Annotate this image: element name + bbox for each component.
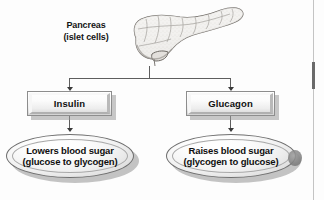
diagram-canvas: Pancreas (islet cells)	[0, 0, 324, 200]
node-raises-blood-sugar: Raises blood sugar (glycogen to glucose)	[166, 134, 296, 178]
pancreas-label: Pancreas (islet cells)	[48, 20, 124, 43]
node-lowers-blood-sugar: Lowers blood sugar (glucose to glycogen)	[6, 134, 134, 178]
pancreas-illustration-icon	[122, 2, 248, 70]
raises-blood-sugar-text: Raises blood sugar (glycogen to glucose)	[183, 145, 278, 168]
page-edge-tab	[312, 62, 315, 89]
raises-effect-line1: Raises blood sugar	[183, 145, 278, 157]
arrowhead-to-lowers-ellipse	[67, 128, 73, 132]
lowers-blood-sugar-text: Lowers blood sugar (glucose to glycogen)	[22, 145, 117, 168]
lowers-effect-line1: Lowers blood sugar	[22, 145, 117, 157]
pancreas-label-line1: Pancreas	[48, 20, 124, 32]
page-edge-blotch	[288, 150, 302, 166]
insulin-label: Insulin	[54, 98, 85, 109]
connector-horizontal-bar	[69, 78, 231, 79]
pancreas-label-line2: (islet cells)	[48, 32, 124, 44]
node-glucagon: Glucagon	[186, 91, 275, 116]
arrowhead-to-raises-ellipse	[228, 128, 234, 132]
glucagon-label: Glucagon	[208, 98, 253, 109]
lowers-effect-line2: (glucose to glycogen)	[22, 156, 117, 168]
node-insulin: Insulin	[27, 91, 112, 116]
raises-effect-line2: (glycogen to glucose)	[183, 156, 278, 168]
page-edge-rule	[313, 0, 314, 200]
